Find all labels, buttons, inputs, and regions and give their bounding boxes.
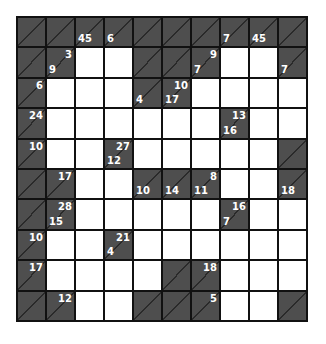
- entry-cell[interactable]: [250, 170, 277, 198]
- blocked-cell: [163, 261, 190, 289]
- across-clue: 3: [65, 50, 72, 60]
- blocked-cell: [18, 48, 45, 76]
- entry-cell[interactable]: [221, 48, 248, 76]
- clue-cell: 97: [192, 48, 219, 76]
- kakuro-board: 4567453997764101724131610271217101481118…: [16, 16, 308, 322]
- entry-cell[interactable]: [221, 231, 248, 259]
- clue-cell: 10: [134, 170, 161, 198]
- across-clue: 18: [203, 263, 217, 273]
- entry-cell[interactable]: [221, 170, 248, 198]
- entry-cell[interactable]: [163, 109, 190, 137]
- across-clue: 16: [232, 202, 246, 212]
- entry-cell[interactable]: [76, 140, 103, 168]
- entry-cell[interactable]: [250, 231, 277, 259]
- down-clue: 4: [107, 247, 114, 257]
- entry-cell[interactable]: [250, 109, 277, 137]
- entry-cell[interactable]: [163, 200, 190, 228]
- entry-cell[interactable]: [250, 140, 277, 168]
- entry-cell[interactable]: [105, 200, 132, 228]
- entry-cell[interactable]: [250, 48, 277, 76]
- entry-cell[interactable]: [279, 261, 306, 289]
- entry-cell[interactable]: [279, 231, 306, 259]
- down-clue: 7: [281, 65, 288, 75]
- entry-cell[interactable]: [134, 261, 161, 289]
- down-clue: 17: [165, 95, 179, 105]
- entry-cell[interactable]: [163, 140, 190, 168]
- blocked-cell: [279, 140, 306, 168]
- down-clue: 7: [194, 65, 201, 75]
- clue-cell: 17: [47, 170, 74, 198]
- clue-cell: 5: [192, 292, 219, 320]
- entry-cell[interactable]: [192, 231, 219, 259]
- down-clue: 9: [49, 65, 56, 75]
- blocked-cell: [192, 18, 219, 46]
- down-clue: 7: [223, 217, 230, 227]
- entry-cell[interactable]: [134, 200, 161, 228]
- entry-cell[interactable]: [76, 109, 103, 137]
- entry-cell[interactable]: [76, 261, 103, 289]
- entry-cell[interactable]: [47, 109, 74, 137]
- blocked-cell: [163, 292, 190, 320]
- blocked-cell: [279, 18, 306, 46]
- entry-cell[interactable]: [134, 109, 161, 137]
- down-clue: 15: [49, 217, 63, 227]
- entry-cell[interactable]: [221, 140, 248, 168]
- across-clue: 27: [116, 142, 130, 152]
- entry-cell[interactable]: [105, 170, 132, 198]
- clue-cell: 214: [105, 231, 132, 259]
- entry-cell[interactable]: [76, 48, 103, 76]
- clue-cell: 10: [18, 140, 45, 168]
- clue-cell: 811: [192, 170, 219, 198]
- across-clue: 17: [29, 263, 43, 273]
- entry-cell[interactable]: [192, 140, 219, 168]
- clue-cell: 167: [221, 200, 248, 228]
- entry-cell[interactable]: [47, 261, 74, 289]
- entry-cell[interactable]: [47, 140, 74, 168]
- entry-cell[interactable]: [192, 109, 219, 137]
- entry-cell[interactable]: [134, 140, 161, 168]
- across-clue: 5: [210, 294, 217, 304]
- entry-cell[interactable]: [250, 200, 277, 228]
- blocked-cell: [163, 18, 190, 46]
- blocked-cell: [18, 292, 45, 320]
- clue-cell: 10: [18, 231, 45, 259]
- clue-cell: 7: [279, 48, 306, 76]
- entry-cell[interactable]: [221, 261, 248, 289]
- entry-cell[interactable]: [105, 292, 132, 320]
- entry-cell[interactable]: [76, 79, 103, 107]
- entry-cell[interactable]: [76, 200, 103, 228]
- entry-cell[interactable]: [76, 170, 103, 198]
- down-clue: 18: [281, 186, 295, 196]
- entry-cell[interactable]: [279, 200, 306, 228]
- across-clue: 8: [210, 172, 217, 182]
- entry-cell[interactable]: [134, 231, 161, 259]
- clue-cell: 7: [221, 18, 248, 46]
- entry-cell[interactable]: [250, 79, 277, 107]
- entry-cell[interactable]: [105, 79, 132, 107]
- across-clue: 12: [58, 294, 72, 304]
- entry-cell[interactable]: [192, 200, 219, 228]
- entry-cell[interactable]: [47, 231, 74, 259]
- entry-cell[interactable]: [279, 79, 306, 107]
- entry-cell[interactable]: [105, 261, 132, 289]
- down-clue: 45: [78, 34, 92, 44]
- entry-cell[interactable]: [192, 79, 219, 107]
- entry-cell[interactable]: [47, 79, 74, 107]
- down-clue: 45: [252, 34, 266, 44]
- clue-cell: 6: [18, 79, 45, 107]
- entry-cell[interactable]: [250, 261, 277, 289]
- entry-cell[interactable]: [221, 292, 248, 320]
- entry-cell[interactable]: [76, 231, 103, 259]
- down-clue: 6: [107, 34, 114, 44]
- across-clue: 17: [58, 172, 72, 182]
- entry-cell[interactable]: [76, 292, 103, 320]
- entry-cell[interactable]: [221, 79, 248, 107]
- entry-cell[interactable]: [250, 292, 277, 320]
- blocked-cell: [47, 18, 74, 46]
- entry-cell[interactable]: [105, 48, 132, 76]
- entry-cell[interactable]: [279, 109, 306, 137]
- blocked-cell: [279, 292, 306, 320]
- across-clue: 10: [174, 81, 188, 91]
- entry-cell[interactable]: [163, 231, 190, 259]
- entry-cell[interactable]: [105, 109, 132, 137]
